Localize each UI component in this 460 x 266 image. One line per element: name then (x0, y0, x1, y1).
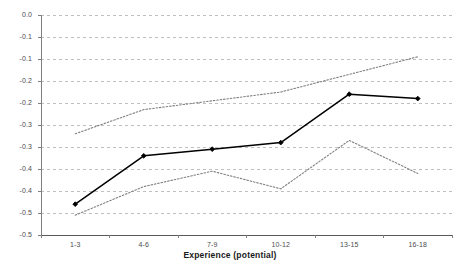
y-tick-label: -0.2 (6, 77, 32, 85)
x-tick-label: 10-12 (251, 241, 311, 249)
x-tick-label: 16-18 (388, 241, 448, 249)
y-tick-label: -0.4 (6, 187, 32, 195)
y-tick-label: -0.1 (6, 55, 32, 63)
y-tick-label: -0.1 (6, 33, 32, 41)
series-line-estimate (75, 94, 418, 204)
y-tick-label: -0.5 (6, 231, 32, 239)
y-tick-label: -0.3 (6, 143, 32, 151)
y-tick-label: -0.5 (6, 209, 32, 217)
y-tick-label: -0.3 (6, 121, 32, 129)
x-axis-title: Experience (potential) (0, 250, 460, 260)
data-point-marker (415, 96, 420, 101)
data-point-marker (210, 147, 215, 152)
y-tick-label: -0.4 (6, 165, 32, 173)
y-tick-label: -0.2 (6, 99, 32, 107)
x-tick-label: 13-15 (319, 241, 379, 249)
x-tick-label: 1-3 (45, 241, 105, 249)
series-line-lower-confidence-band (75, 140, 418, 215)
x-tick-label: 7-9 (182, 241, 242, 249)
y-tick-label: 0.0 (6, 11, 32, 19)
gridlines-group (41, 15, 452, 235)
chart-container: 0.0-0.1-0.1-0.2-0.2-0.3-0.3-0.4-0.4-0.5-… (0, 0, 460, 266)
chart-plot-area (0, 0, 460, 266)
x-tick-label: 4-6 (114, 241, 174, 249)
